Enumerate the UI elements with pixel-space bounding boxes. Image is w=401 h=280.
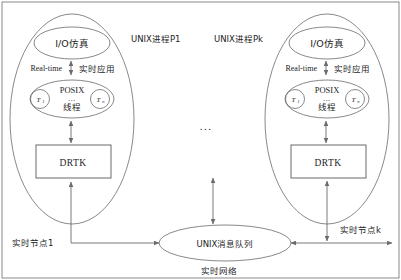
node-k-thread-label: 线程 [318, 102, 336, 112]
node-k-thread-last-subscript: n [357, 99, 360, 104]
node-k-io-label: I/O仿真 [310, 38, 343, 49]
node-1-process-label: UNIX进程P1 [131, 34, 180, 44]
node-1-link-right-label: 实时应用 [79, 64, 115, 74]
node-k-link-left-label: Real-time [285, 64, 317, 73]
message-queue-group: UNIX消息队列 实时网络 [159, 178, 291, 276]
node-1-thread-label: 线程 [63, 102, 81, 112]
network-label: 实时网络 [201, 266, 237, 276]
node-1-node-label: 实时节点1 [12, 238, 53, 248]
node-k-thread-first-label: T [292, 96, 297, 104]
architecture-diagram: I/O仿真 Real-time 实时应用 POSIX ... 线程 T 1 T … [0, 0, 401, 280]
node-k-node-label: 实时节点k [340, 225, 381, 235]
node-k-group: I/O仿真 Real-time 实时应用 POSIX ... 线程 T 1 T … [265, 14, 392, 243]
node-k-link-right-label: 实时应用 [334, 64, 370, 74]
message-queue-label: UNIX消息队列 [197, 239, 254, 249]
node-1-kernel-label: DRTK [60, 158, 87, 168]
node-1-io-label: I/O仿真 [55, 38, 88, 49]
node-1-link-left-label: Real-time [30, 64, 62, 73]
node-1-thread-first-subscript: 1 [42, 99, 44, 104]
node-1-thread-first-label: T [37, 96, 42, 104]
node-1-thread-last-subscript: n [102, 99, 105, 104]
node-k-kernel-label: DRTK [315, 158, 342, 168]
node-1-thread-last-label: T [97, 96, 102, 104]
node-k-process-label: UNIX进程Pk [214, 34, 263, 44]
diagram-canvas: I/O仿真 Real-time 实时应用 POSIX ... 线程 T 1 T … [0, 0, 401, 280]
node-k-thread-last-label: T [352, 96, 357, 104]
nodes-ellipsis: ... [200, 120, 213, 132]
node-k-thread-first-subscript: 1 [297, 99, 299, 104]
node-1-group: I/O仿真 Real-time 实时应用 POSIX ... 线程 T 1 T … [10, 14, 159, 248]
